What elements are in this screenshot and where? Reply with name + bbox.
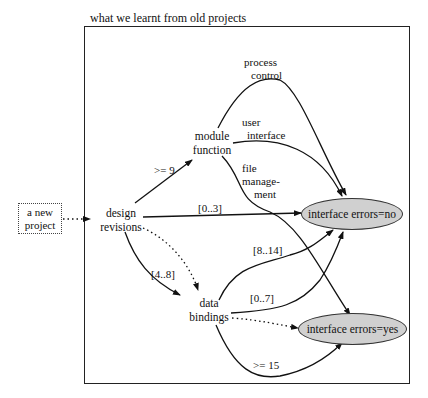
label-0-3: [0..3]	[198, 202, 222, 215]
label-user-interface-line2: interface	[242, 129, 285, 142]
edge-0-7	[231, 232, 343, 313]
label-user-interface: user interface	[242, 116, 285, 142]
edge-4-8	[125, 232, 180, 295]
label-8-14: [8..14]	[253, 244, 282, 257]
edge-8-14	[219, 230, 333, 300]
label-file-management-line3: ment	[242, 188, 280, 201]
label-ge9: >= 9	[154, 164, 175, 177]
label-ge15: >= 15	[253, 359, 279, 372]
node-design-revisions-line2: revisions	[98, 220, 144, 234]
node-data-bindings-line1: data	[185, 296, 233, 310]
node-module-function-line2: function	[189, 143, 235, 157]
label-process-control-line2: control	[244, 69, 282, 82]
label-file-management-line2: manage-	[242, 175, 280, 188]
label-4-8: [4..8]	[151, 268, 175, 281]
label-user-interface-line1: user	[242, 116, 285, 129]
label-file-management-line1: file	[242, 162, 280, 175]
node-module-function: module function	[189, 129, 235, 157]
outcome-interface-errors-yes: interface errors=yes	[298, 313, 407, 345]
label-0-7: [0..7]	[250, 292, 274, 305]
label-process-control: process control	[244, 56, 282, 82]
label-process-control-line1: process	[244, 56, 282, 69]
node-design-revisions-line1: design	[98, 206, 144, 220]
label-file-management: file manage- ment	[242, 162, 280, 201]
node-data-bindings-line2: bindings	[185, 310, 233, 324]
outcome-interface-errors-no: interface errors=no	[301, 198, 403, 230]
node-module-function-line1: module	[189, 129, 235, 143]
node-design-revisions: design revisions	[98, 206, 144, 234]
node-data-bindings: data bindings	[185, 296, 233, 324]
edge-dotted-data-to-yes	[232, 318, 298, 328]
